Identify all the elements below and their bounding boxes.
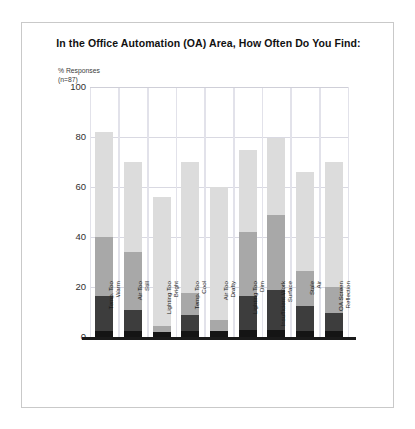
x-axis-tick-label: Stale Air (308, 281, 323, 345)
y-axis-tick-label: 20 (52, 281, 86, 292)
x-axis-tick-label: OA Screen Reflection (337, 281, 352, 345)
y-axis-tick-label: 100 (52, 81, 86, 92)
chart-figure: In the Office Automation (OA) Area, How … (21, 22, 394, 408)
chart-title: In the Office Automation (OA) Area, How … (22, 37, 395, 49)
bar-segment (124, 162, 142, 252)
x-axis-tick-label: Lighting Too Dim (251, 281, 266, 345)
y-axis-tick-label: 80 (52, 131, 86, 142)
y-axis-ticks: 020406080100 (48, 87, 86, 337)
x-axis-tick-label: Insufficient Work Surface (279, 281, 294, 345)
y-axis-tick-label: 0 (52, 331, 86, 342)
bar-segment (239, 150, 257, 233)
bar-segment (267, 138, 285, 214)
x-axis-tick-label: Air Too Still (136, 281, 151, 345)
bar-segment (296, 172, 314, 271)
x-axis-tick-label: Air Too Drafty (222, 281, 237, 345)
plot-top-border (90, 87, 348, 88)
y-axis-tick-label: 40 (52, 231, 86, 242)
x-axis-tick-label: Lighting Too Bright (165, 281, 180, 345)
bar-segment (181, 162, 199, 293)
bar-segment (267, 215, 285, 290)
x-axis-tick-label: Temp. Too Cool (193, 281, 208, 345)
x-axis-tick-label: Temp. Too Warm (107, 281, 122, 345)
gridline (90, 137, 348, 138)
bar-segment (95, 132, 113, 237)
y-axis-tick-label: 60 (52, 181, 86, 192)
bar-segment (325, 162, 343, 287)
bar-slot-separator (90, 87, 91, 337)
